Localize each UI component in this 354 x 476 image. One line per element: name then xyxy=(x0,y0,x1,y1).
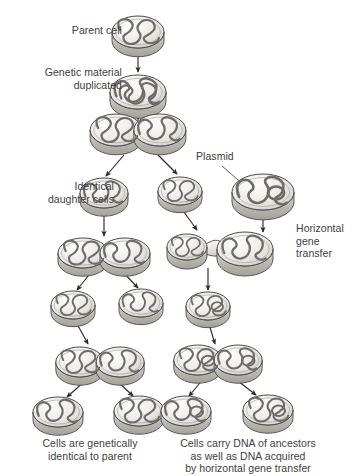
clone-cell-right-upper xyxy=(119,289,163,325)
final-cell-left-1 xyxy=(33,397,83,435)
final-cell-left-2 xyxy=(114,396,164,434)
dividing-cell-left-third xyxy=(56,347,144,385)
cell-top-face xyxy=(217,232,273,266)
label-genetic-material-duplicated: Genetic material duplicated xyxy=(4,66,122,91)
daughter-cell-right xyxy=(158,177,202,213)
dividing-cell-right-third xyxy=(174,345,262,383)
label-identical-daughter-cells: Identical daughter cells xyxy=(8,180,114,205)
conjugating-cell-pair xyxy=(167,232,273,276)
arrow-division-to-daughter-l xyxy=(106,155,124,176)
cell-top-face xyxy=(96,347,144,377)
cell-top-face xyxy=(119,289,163,317)
dividing-cell-left-second xyxy=(58,238,150,276)
transconjugant-cell xyxy=(186,292,230,328)
caption-left-lineage: Cells are genetically identical to paren… xyxy=(14,437,166,462)
label-horizontal-gene-transfer: Horizontal gene transfer xyxy=(296,222,354,260)
final-cell-right-1 xyxy=(161,396,211,434)
label-parent-cell: Parent cell xyxy=(18,24,122,37)
diagram-canvas: Parent cell Genetic material duplicated … xyxy=(0,0,354,476)
plasmid-donor-cell xyxy=(232,174,294,220)
final-cell-right-2 xyxy=(243,395,293,433)
label-plasmid: Plasmid xyxy=(196,150,256,163)
clone-cell-left-upper xyxy=(51,291,95,327)
arrow-division-to-daughter-r xyxy=(158,155,177,174)
caption-right-lineage: Cells carry DNA of ancestors as well as … xyxy=(150,437,346,475)
